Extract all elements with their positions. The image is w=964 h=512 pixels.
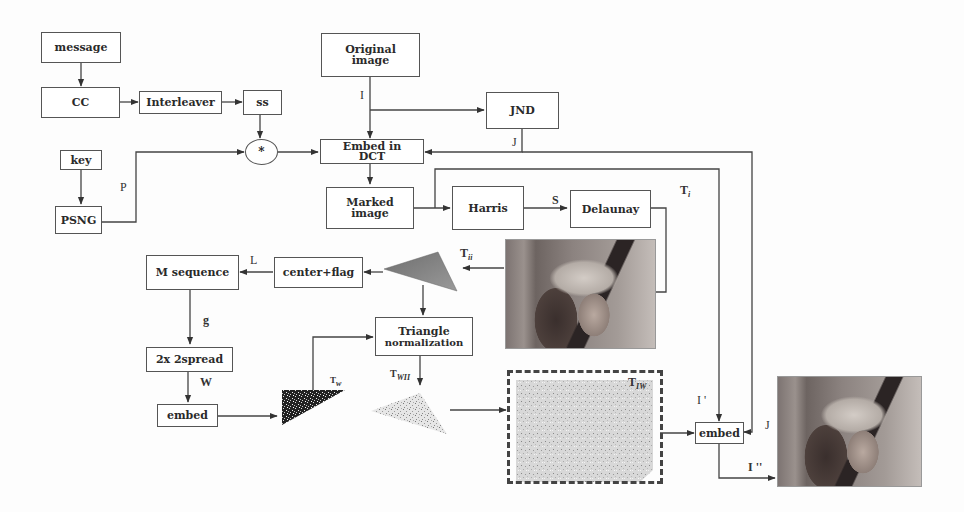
diagram-canvas: message CC Interleaver ss key PSNG * Ori… bbox=[0, 0, 964, 512]
m-sequence-box: M sequence bbox=[146, 255, 239, 290]
label-I: I bbox=[360, 88, 364, 103]
label-T-main: T bbox=[628, 375, 636, 389]
key-box: key bbox=[60, 150, 102, 170]
label-Ti: Ti bbox=[680, 183, 690, 199]
spread-box: 2x 2spread bbox=[146, 347, 233, 372]
label-Tw: Tw bbox=[330, 375, 341, 388]
gray-triangle-image bbox=[384, 252, 457, 291]
delaunay-box: Delaunay bbox=[570, 190, 651, 228]
label-T-main: T bbox=[460, 246, 468, 260]
triangle-norm-label-line2: normalization bbox=[385, 337, 463, 348]
lena-marked-image bbox=[505, 239, 656, 349]
label-Tii: Tii bbox=[460, 246, 472, 262]
label-g: g bbox=[203, 313, 209, 328]
original-image-label-line2: image bbox=[352, 55, 390, 66]
lena-output-image bbox=[777, 376, 922, 487]
jnd-box: JND bbox=[486, 92, 559, 129]
interleaver-box: Interleaver bbox=[139, 91, 222, 114]
center-flag-box: center+flag bbox=[274, 257, 363, 288]
marked-image-label-line2: image bbox=[351, 208, 389, 219]
embed-in-dct-box: Embed in DCT bbox=[320, 139, 424, 164]
normalized-watermark-triangle bbox=[371, 393, 447, 434]
label-Tw-sub: w bbox=[336, 379, 341, 388]
original-image-box: Original image bbox=[321, 33, 420, 77]
label-Tiw-sub: IW bbox=[636, 382, 646, 391]
label-L: L bbox=[250, 253, 257, 268]
label-T-main: T bbox=[390, 368, 397, 379]
multiply-node: * bbox=[245, 139, 278, 165]
triangle-normalization-box: Triangle normalization bbox=[375, 317, 473, 356]
harris-box: Harris bbox=[452, 186, 524, 230]
label-T-main: T bbox=[680, 183, 688, 197]
cc-box: CC bbox=[41, 87, 120, 118]
label-Twii-sub: WII bbox=[397, 373, 410, 382]
label-Tiw: TIW bbox=[628, 375, 646, 391]
label-I-prime: I ' bbox=[697, 393, 706, 408]
triangle-norm-label-line1: Triangle bbox=[398, 326, 449, 337]
label-Twii: TWII bbox=[390, 368, 410, 382]
label-S: S bbox=[552, 193, 559, 208]
embed-left-box: embed bbox=[157, 404, 218, 427]
marked-image-box: Marked image bbox=[326, 187, 414, 229]
psng-box: PSNG bbox=[55, 206, 102, 234]
label-P: P bbox=[120, 180, 127, 195]
watermark-noise-triangle bbox=[282, 390, 345, 425]
embed-dct-label-line2: DCT bbox=[359, 152, 385, 162]
label-W: W bbox=[200, 375, 212, 390]
message-box: message bbox=[41, 32, 121, 63]
label-Ti-sub: i bbox=[688, 190, 690, 199]
label-J-right: J bbox=[765, 418, 770, 433]
label-Tii-sub: ii bbox=[468, 253, 472, 262]
embed-right-box: embed bbox=[695, 422, 744, 444]
ss-box: ss bbox=[243, 90, 282, 115]
label-I-double-prime: I '' bbox=[748, 460, 762, 475]
label-J-top: J bbox=[512, 135, 517, 150]
